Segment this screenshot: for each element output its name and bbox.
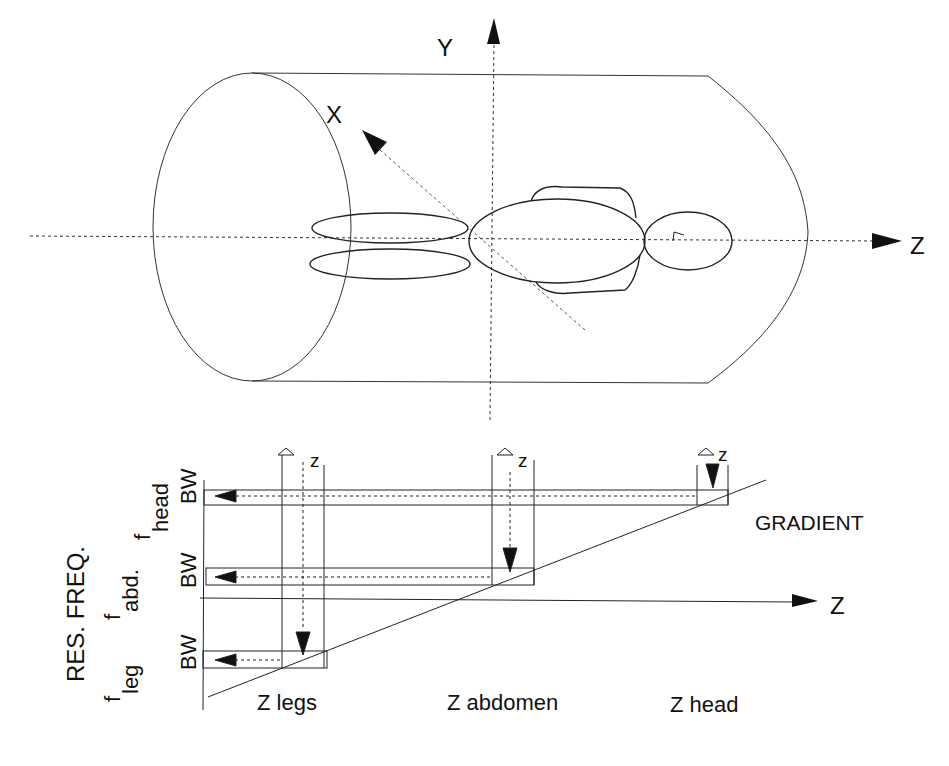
bw-label-legs: BW <box>176 634 201 670</box>
x-axis <box>362 130 585 330</box>
x-axis-label: X <box>326 101 342 128</box>
z-axis-label-top: Z <box>910 232 925 259</box>
y-axis <box>487 18 500 420</box>
f-abd-label: f abd. <box>100 569 143 620</box>
y-axis-label: Y <box>437 34 453 61</box>
f-abd-main: f <box>100 613 125 620</box>
gradient-line <box>208 480 766 697</box>
f-head-label: f head <box>130 483 173 540</box>
slab-abdomen <box>206 448 534 585</box>
z-axis-top <box>30 233 902 249</box>
abdomen <box>469 199 645 283</box>
res-freq-label: RES. FREQ. <box>62 546 89 682</box>
bw-label-head: BW <box>176 468 201 504</box>
delta-z-abdomen: z <box>518 450 528 471</box>
z-legs-label: Z legs <box>257 690 317 715</box>
f-head-sub: head <box>148 483 173 532</box>
z-axis-bottom <box>200 594 818 607</box>
bw-label-abdomen: BW <box>176 552 201 588</box>
mri-gradient-diagram: Y X Z Z GRADIENT z <box>0 0 949 766</box>
z-abdomen-label: Z abdomen <box>447 690 558 715</box>
z-head-label: Z head <box>670 692 739 717</box>
freq-axis <box>203 480 204 710</box>
f-abd-sub: abd. <box>118 569 143 612</box>
gradient-label: GRADIENT <box>755 511 864 534</box>
f-leg-main: f <box>100 695 125 702</box>
slab-legs <box>203 448 327 668</box>
delta-z-legs: z <box>310 450 320 471</box>
f-leg-sub: leg <box>118 665 143 694</box>
slab-head <box>204 448 728 505</box>
f-leg-label: f leg <box>100 665 143 702</box>
arm-upper <box>531 187 636 218</box>
z-axis-label-bottom: Z <box>830 592 845 619</box>
arm-lower <box>536 255 640 293</box>
f-head-main: f <box>130 533 155 540</box>
leg-lower <box>310 249 470 279</box>
magnet-bore-cylinder <box>153 73 808 383</box>
head <box>644 212 732 270</box>
delta-z-head: z <box>718 444 728 465</box>
